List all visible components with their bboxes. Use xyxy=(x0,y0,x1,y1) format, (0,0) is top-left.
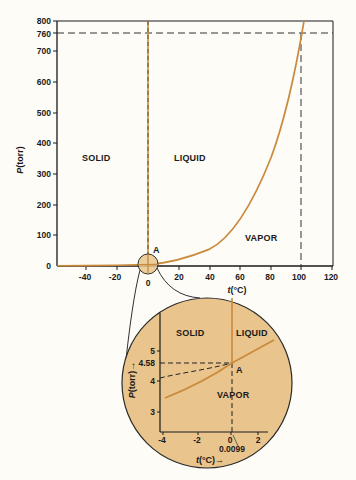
region-label-solid: SOLID xyxy=(82,153,111,163)
triple-point-label: A xyxy=(153,245,160,255)
inset-triple-point-label: A xyxy=(236,365,243,375)
y-tick-label: 300 xyxy=(37,169,51,179)
y-tick-label: 600 xyxy=(37,77,51,87)
x-tick-label: 120 xyxy=(324,272,338,282)
inset-y-tick-label: 4.58 xyxy=(138,358,155,368)
y-tick-label: 800 xyxy=(37,16,51,26)
phase-diagram: 800 760 700 600 500 400 300 200 100 0 P(… xyxy=(0,0,356,480)
y-tick-label: 100 xyxy=(37,230,51,240)
y-tick-label: 500 xyxy=(37,108,51,118)
y-tick-label: 760 xyxy=(37,29,51,39)
inset-y-tick-label: 3 xyxy=(150,407,155,417)
x-ticks: -40 -20 0 20 40 60 80 100 120 xyxy=(79,266,339,288)
inset-plot: 5 4.58 4 3 -4 -2 0 2 0.0099 P(torr)→ t(°… xyxy=(122,298,292,468)
x-tick-label: -40 xyxy=(79,272,92,282)
sublimation-curve xyxy=(57,265,148,266)
inset-region-liquid: LIQUID xyxy=(236,328,268,338)
inset-y-tick-label: 4 xyxy=(150,376,155,386)
inset-region-vapor: VAPOR xyxy=(217,390,250,400)
main-plot: 800 760 700 600 500 400 300 200 100 0 P(… xyxy=(15,16,338,295)
y-tick-label: 200 xyxy=(37,200,51,210)
inset-region-solid: SOLID xyxy=(176,328,205,338)
y-axis-label: P(torr) xyxy=(15,146,25,174)
inset-circle xyxy=(122,298,292,468)
y-tick-label: 0 xyxy=(46,261,51,271)
y-tick-label: 400 xyxy=(37,138,51,148)
inset-x-axis-label: t(°C)→ xyxy=(196,455,224,465)
x-tick-label: 100 xyxy=(292,272,306,282)
inset-x-tick-label: 2 xyxy=(256,435,261,445)
y-ticks: 800 760 700 600 500 400 300 200 100 0 xyxy=(37,16,57,271)
x-tick-label: 40 xyxy=(205,272,215,282)
vapor-pressure-curve xyxy=(148,21,304,265)
y-tick-label: 700 xyxy=(37,46,51,56)
x-tick-label: -20 xyxy=(109,272,122,282)
region-label-vapor: VAPOR xyxy=(245,233,278,243)
inset-x-tick-label: -2 xyxy=(193,435,201,445)
x-axis-label: t(°C) xyxy=(227,285,246,295)
x-tick-label: 80 xyxy=(265,272,275,282)
x-tick-label: 0 xyxy=(146,278,151,288)
inset-y-tick-label: 5 xyxy=(150,346,155,356)
x-tick-label: 60 xyxy=(235,272,245,282)
triple-point-temperature: 0.0099 xyxy=(219,444,245,454)
x-tick-label: 20 xyxy=(174,272,184,282)
region-label-liquid: LIQUID xyxy=(174,153,206,163)
inset-y-axis-label: P(torr)→ xyxy=(127,362,137,399)
inset-x-tick-label: -4 xyxy=(158,435,166,445)
